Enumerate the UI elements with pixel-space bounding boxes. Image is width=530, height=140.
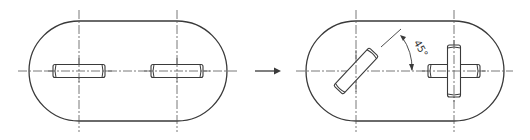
diagram-canvas: 45°	[0, 0, 530, 140]
angle-label: 45°	[412, 38, 430, 59]
before-layout	[18, 10, 238, 132]
right-arrow-icon	[255, 68, 281, 75]
after-layout: 45°	[296, 10, 513, 132]
cross-pin	[422, 40, 486, 102]
angle-arrowhead-bottom	[409, 64, 414, 71]
angle-arrowhead-top	[400, 35, 406, 41]
angle-reference-line	[381, 29, 401, 47]
